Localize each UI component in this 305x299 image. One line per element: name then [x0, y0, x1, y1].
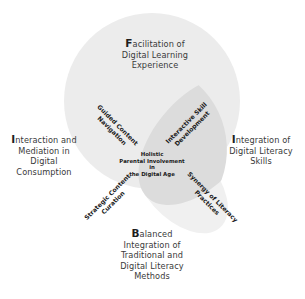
- label-text: nteraction and: [15, 135, 76, 145]
- label-text: Skills: [219, 156, 303, 167]
- label-text: acilitation of: [133, 39, 185, 49]
- diagram-canvas: Facilitation of Digital Learning Experie…: [0, 0, 305, 299]
- label-text: Experience: [100, 60, 210, 71]
- label-text: Methods: [110, 271, 194, 282]
- label-text: Digital Literacy: [110, 261, 194, 272]
- label-text: Consumption: [2, 167, 86, 178]
- label-interaction-mediation: Interaction and Mediation in Digital Con…: [2, 134, 86, 177]
- label-text: Digital Learning: [100, 50, 210, 61]
- label-text: in: [110, 164, 194, 171]
- label-text: Parental Involvement: [110, 158, 194, 165]
- label-facilitation: Facilitation of Digital Learning Experie…: [100, 38, 210, 71]
- label-text: the Digital Age: [110, 171, 194, 178]
- label-text: alanced: [140, 229, 173, 239]
- label-text: Digital: [2, 156, 86, 167]
- label-cap: B: [131, 227, 139, 239]
- label-text: Digital Literacy: [219, 146, 303, 157]
- label-text: Integration of: [110, 240, 194, 251]
- label-text: ntegration of: [236, 135, 291, 145]
- label-text: Holistic: [110, 151, 194, 158]
- label-integration-literacy: Integration of Digital Literacy Skills: [219, 134, 303, 167]
- label-text: Mediation in: [2, 146, 86, 157]
- label-cap: F: [125, 37, 132, 49]
- label-center-holistic: Holistic Parental Involvement in the Dig…: [110, 151, 194, 177]
- label-balanced-integration: Balanced Integration of Traditional and …: [110, 228, 194, 282]
- label-text: Traditional and: [110, 250, 194, 261]
